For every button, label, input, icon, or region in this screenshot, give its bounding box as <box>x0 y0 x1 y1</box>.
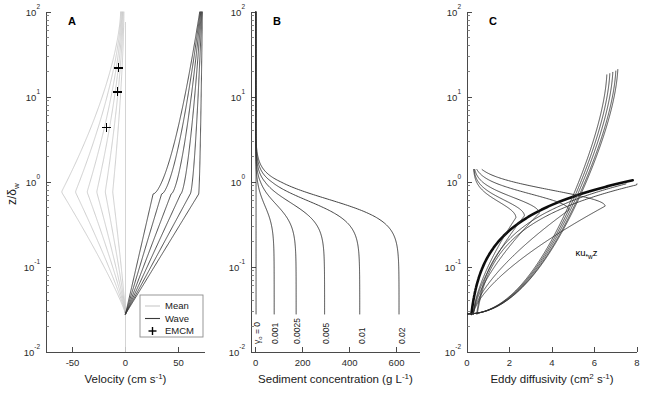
wave-velocity-curve <box>126 12 202 314</box>
axis-frame <box>251 12 420 352</box>
wave-velocity-curve <box>126 12 201 314</box>
figure-svg: 10-210-1100101102-50050A10-210-110010110… <box>0 0 645 395</box>
y-tick-label: 10-1 <box>24 257 41 273</box>
panel-b-curves: γo = 00.0010.00250.0050.010.02 <box>252 12 407 344</box>
x-axis-title: Sediment concentration (g L-1) <box>258 372 413 385</box>
x-tick-label: 4 <box>549 357 554 368</box>
y-tick-label: 10-2 <box>24 342 41 358</box>
panel-a-legend: MeanWaveEMCM <box>140 295 203 337</box>
x-axis-title: Eddy diffusivity (cm2 s-1) <box>490 372 613 385</box>
gamma-label: γo = 0 <box>252 322 264 344</box>
x-axis-title: Velocity (cm s-1) <box>85 372 167 385</box>
gamma-label: 0.005 <box>321 322 331 344</box>
x-tick-label: 0 <box>123 357 128 368</box>
y-tick-label: 10-2 <box>229 342 246 358</box>
figure-container: 10-210-1100101102-50050A10-210-110010110… <box>0 0 645 395</box>
wall-layer-annotation: κu*wz <box>575 247 597 260</box>
panel-letter: A <box>68 15 76 27</box>
sediment-concentration-curve <box>256 12 399 314</box>
x-tick-label: 200 <box>295 357 311 368</box>
x-tick-label: -50 <box>66 357 80 368</box>
gamma-label: 0.001 <box>270 322 280 344</box>
wave-velocity-curve <box>126 12 201 314</box>
gamma-label: 0.01 <box>357 327 367 344</box>
y-tick-label: 10-1 <box>445 257 462 273</box>
eddy-diffusivity-upper-branch <box>467 75 606 314</box>
gamma-label: 0.02 <box>397 327 407 344</box>
panel-letter: B <box>273 15 281 27</box>
y-tick-label: 101 <box>231 87 246 103</box>
x-tick-label: 50 <box>173 357 184 368</box>
legend-label: Mean <box>165 300 189 311</box>
sediment-concentration-curve <box>256 12 360 314</box>
x-tick-label: 0 <box>464 357 469 368</box>
sediment-concentration-curve <box>256 12 325 314</box>
x-tick-label: 400 <box>342 357 358 368</box>
y-axis-title-text: z/δw <box>5 183 21 205</box>
y-tick-label: 101 <box>447 87 462 103</box>
y-tick-label: 100 <box>26 172 41 188</box>
x-tick-label: 8 <box>634 357 639 368</box>
y-axis-title: z/δw <box>5 183 21 205</box>
y-tick-label: 100 <box>231 172 246 188</box>
y-tick-label: 101 <box>26 87 41 103</box>
x-tick-label: 2 <box>507 357 512 368</box>
sediment-concentration-curve <box>256 12 296 314</box>
eddy-diffusivity-upper-branch <box>467 72 612 314</box>
panel-letter: C <box>489 15 497 27</box>
y-tick-label: 102 <box>447 2 462 18</box>
y-tick-label: 100 <box>447 172 462 188</box>
eddy-diffusivity-upper-branch <box>467 70 617 314</box>
x-axis-titles: Velocity (cm s-1)Sediment concentration … <box>85 372 614 385</box>
eddy-diffusivity-upper-branch <box>467 74 609 314</box>
y-tick-label: 10-2 <box>445 342 462 358</box>
y-tick-label: 102 <box>231 2 246 18</box>
y-tick-label: 102 <box>26 2 41 18</box>
legend-label: Wave <box>165 313 189 324</box>
gamma-label: 0.0025 <box>292 318 302 344</box>
eddy-diffusivity-lower-lobe <box>473 170 605 314</box>
wave-velocity-curve <box>126 12 203 314</box>
y-tick-label: 10-1 <box>229 257 246 273</box>
x-tick-label: 6 <box>592 357 597 368</box>
panel-c-curves: κu*wz <box>467 70 637 314</box>
legend-label: EMCM <box>165 325 194 336</box>
wave-velocity-curve <box>126 12 200 314</box>
x-tick-label: 600 <box>389 357 405 368</box>
wave-velocity-curve <box>126 12 202 314</box>
x-tick-label: 0 <box>253 357 258 368</box>
